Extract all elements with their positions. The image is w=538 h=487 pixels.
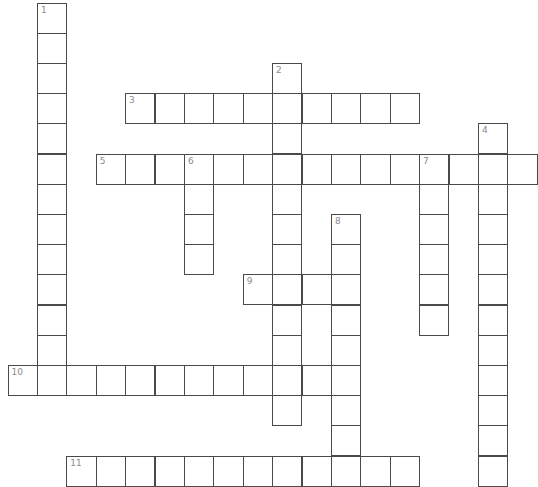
crossword-cell[interactable] (125, 154, 155, 185)
crossword-cell[interactable] (37, 123, 67, 154)
crossword-cell[interactable] (37, 244, 67, 275)
crossword-cell[interactable] (37, 305, 67, 336)
crossword-cell[interactable] (360, 93, 390, 124)
crossword-cell[interactable] (155, 456, 185, 487)
crossword-cell[interactable] (155, 154, 185, 185)
crossword-cell[interactable] (37, 63, 67, 94)
crossword-cell[interactable] (331, 274, 361, 305)
crossword-cell[interactable] (213, 456, 243, 487)
crossword-cell[interactable] (66, 365, 96, 396)
crossword-cell[interactable] (302, 154, 332, 185)
crossword-cell[interactable] (449, 154, 479, 185)
crossword-cell[interactable] (302, 274, 332, 305)
crossword-cell[interactable] (331, 305, 361, 336)
crossword-cell[interactable] (272, 123, 302, 154)
crossword-cell[interactable] (272, 365, 302, 396)
crossword-cell[interactable]: 10 (8, 365, 38, 396)
crossword-cell[interactable] (155, 365, 185, 396)
crossword-cell[interactable] (184, 365, 214, 396)
crossword-cell[interactable] (360, 154, 390, 185)
crossword-cell[interactable] (478, 335, 508, 366)
crossword-cell[interactable] (37, 184, 67, 215)
clue-number: 10 (12, 367, 23, 377)
crossword-cell[interactable]: 2 (272, 63, 302, 94)
crossword-cell[interactable]: 7 (419, 154, 449, 185)
crossword-cell[interactable] (125, 365, 155, 396)
crossword-cell[interactable] (478, 365, 508, 396)
crossword-cell[interactable] (37, 93, 67, 124)
crossword-cell[interactable] (243, 93, 273, 124)
crossword-cell[interactable] (37, 335, 67, 366)
crossword-cell[interactable] (272, 184, 302, 215)
crossword-cell[interactable] (419, 305, 449, 336)
crossword-cell[interactable]: 4 (478, 123, 508, 154)
crossword-cell[interactable]: 1 (37, 3, 67, 34)
crossword-cell[interactable] (331, 425, 361, 456)
crossword-cell[interactable]: 5 (96, 154, 126, 185)
crossword-cell[interactable] (96, 456, 126, 487)
crossword-cell[interactable] (243, 456, 273, 487)
crossword-cell[interactable] (478, 425, 508, 456)
crossword-cell[interactable] (272, 305, 302, 336)
crossword-cell[interactable] (125, 456, 155, 487)
crossword-cell[interactable] (155, 93, 185, 124)
crossword-cell[interactable] (360, 456, 390, 487)
crossword-cell[interactable] (478, 154, 508, 185)
crossword-cell[interactable] (272, 335, 302, 366)
crossword-cell[interactable]: 11 (66, 456, 96, 487)
crossword-cell[interactable] (37, 274, 67, 305)
crossword-cell[interactable] (272, 395, 302, 426)
crossword-cell[interactable] (507, 154, 537, 185)
crossword-cell[interactable] (243, 154, 273, 185)
crossword-cell[interactable] (184, 93, 214, 124)
crossword-cell[interactable] (272, 456, 302, 487)
crossword-cell[interactable] (302, 365, 332, 396)
crossword-cell[interactable]: 8 (331, 214, 361, 245)
crossword-cell[interactable] (478, 305, 508, 336)
crossword-cell[interactable] (478, 456, 508, 487)
crossword-cell[interactable] (302, 456, 332, 487)
crossword-cell[interactable] (478, 395, 508, 426)
crossword-cell[interactable] (37, 365, 67, 396)
crossword-cell[interactable] (184, 214, 214, 245)
crossword-cell[interactable] (96, 365, 126, 396)
crossword-cell[interactable] (419, 184, 449, 215)
crossword-cell[interactable] (331, 244, 361, 275)
crossword-cell[interactable] (331, 365, 361, 396)
crossword-cell[interactable] (184, 184, 214, 215)
crossword-cell[interactable] (390, 456, 420, 487)
crossword-cell[interactable] (302, 93, 332, 124)
crossword-cell[interactable] (37, 33, 67, 64)
crossword-cell[interactable] (37, 154, 67, 185)
crossword-cell[interactable] (272, 274, 302, 305)
crossword-cell[interactable] (243, 365, 273, 396)
crossword-cell[interactable] (213, 154, 243, 185)
crossword-cell[interactable] (272, 214, 302, 245)
crossword-cell[interactable] (272, 244, 302, 275)
crossword-cell[interactable] (272, 154, 302, 185)
crossword-cell[interactable] (184, 456, 214, 487)
crossword-cell[interactable] (331, 93, 361, 124)
crossword-cell[interactable] (390, 154, 420, 185)
crossword-cell[interactable] (419, 274, 449, 305)
crossword-cell[interactable] (478, 244, 508, 275)
crossword-cell[interactable]: 9 (243, 274, 273, 305)
crossword-cell[interactable] (478, 184, 508, 215)
crossword-cell[interactable]: 3 (125, 93, 155, 124)
crossword-cell[interactable] (419, 214, 449, 245)
crossword-cell[interactable] (331, 456, 361, 487)
crossword-cell[interactable] (390, 93, 420, 124)
crossword-cell[interactable] (184, 244, 214, 275)
crossword-cell[interactable] (331, 154, 361, 185)
crossword-cell[interactable] (478, 274, 508, 305)
crossword-cell[interactable] (331, 335, 361, 366)
crossword-cell[interactable] (37, 214, 67, 245)
crossword-cell[interactable] (213, 365, 243, 396)
crossword-cell[interactable] (419, 244, 449, 275)
crossword-cell[interactable] (272, 93, 302, 124)
crossword-cell[interactable]: 6 (184, 154, 214, 185)
clue-number: 9 (247, 276, 253, 286)
crossword-cell[interactable] (478, 214, 508, 245)
crossword-cell[interactable] (213, 93, 243, 124)
crossword-cell[interactable] (331, 395, 361, 426)
